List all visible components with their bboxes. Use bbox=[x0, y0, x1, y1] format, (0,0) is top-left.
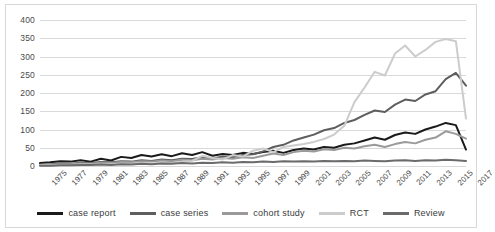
x-axis-tick-label: 1981 bbox=[111, 168, 130, 187]
x-axis-tick-label: 2011 bbox=[415, 168, 434, 187]
legend-swatch-icon bbox=[130, 212, 156, 215]
x-axis-tick-label: 2005 bbox=[354, 168, 373, 187]
x-axis-tick-label: 1977 bbox=[70, 168, 89, 187]
x-axis-tick-label: 1997 bbox=[273, 168, 292, 187]
x-axis-tick-label: 1975 bbox=[50, 168, 69, 187]
legend-label: case report bbox=[68, 208, 115, 218]
y-axis-tick-label: 250 bbox=[20, 70, 35, 80]
x-axis-tick-label: 2009 bbox=[395, 168, 414, 187]
legend-label: cohort study bbox=[253, 208, 304, 218]
x-axis-tick-label: 1985 bbox=[151, 168, 170, 187]
y-axis-tick-label: 200 bbox=[20, 88, 35, 98]
chart-legend: case reportcase seriescohort studyRCTRev… bbox=[0, 203, 482, 223]
x-axis-tick-label: 1995 bbox=[253, 168, 272, 187]
plot-area: 400350300250200150100500 bbox=[40, 20, 466, 166]
y-axis-tick-label: 350 bbox=[20, 33, 35, 43]
legend-label: RCT bbox=[350, 208, 369, 218]
y-axis-tick-label: 100 bbox=[20, 125, 35, 135]
x-axis-tick-label: 1999 bbox=[293, 168, 312, 187]
x-axis-tick-label: 1993 bbox=[232, 168, 251, 187]
x-axis: 1975197719791981198319851987198919911993… bbox=[40, 167, 466, 199]
x-axis-tick-label: 1991 bbox=[212, 168, 231, 187]
legend-item[interactable]: Review bbox=[383, 208, 445, 218]
legend-item[interactable]: case report bbox=[37, 208, 115, 218]
x-axis-tick-label: 1989 bbox=[192, 168, 211, 187]
x-axis-tick-label: 2017 bbox=[476, 168, 495, 187]
legend-item[interactable]: case series bbox=[130, 208, 209, 218]
y-axis-tick-label: 50 bbox=[25, 143, 35, 153]
legend-label: case series bbox=[161, 208, 209, 218]
x-axis-tick-label: 2015 bbox=[456, 168, 475, 187]
x-axis-tick-label: 1987 bbox=[172, 168, 191, 187]
legend-swatch-icon bbox=[222, 212, 248, 215]
legend-item[interactable]: cohort study bbox=[222, 208, 304, 218]
legend-swatch-icon bbox=[383, 212, 409, 215]
legend-item[interactable]: RCT bbox=[319, 208, 369, 218]
legend-label: Review bbox=[414, 208, 445, 218]
x-axis-tick-label: 1979 bbox=[90, 168, 109, 187]
y-axis-tick-label: 150 bbox=[20, 106, 35, 116]
y-axis-tick-label: 0 bbox=[30, 161, 35, 171]
series-lines bbox=[40, 20, 466, 166]
y-axis-tick-label: 400 bbox=[20, 15, 35, 25]
x-axis-tick-label: 1983 bbox=[131, 168, 150, 187]
y-axis-tick-label: 300 bbox=[20, 52, 35, 62]
x-axis-tick-label: 2007 bbox=[374, 168, 393, 187]
legend-swatch-icon bbox=[37, 212, 63, 215]
legend-swatch-icon bbox=[319, 212, 345, 215]
x-axis-tick-label: 2013 bbox=[435, 168, 454, 187]
x-axis-tick-label: 2001 bbox=[314, 168, 333, 187]
x-axis-tick-label: 2003 bbox=[334, 168, 353, 187]
